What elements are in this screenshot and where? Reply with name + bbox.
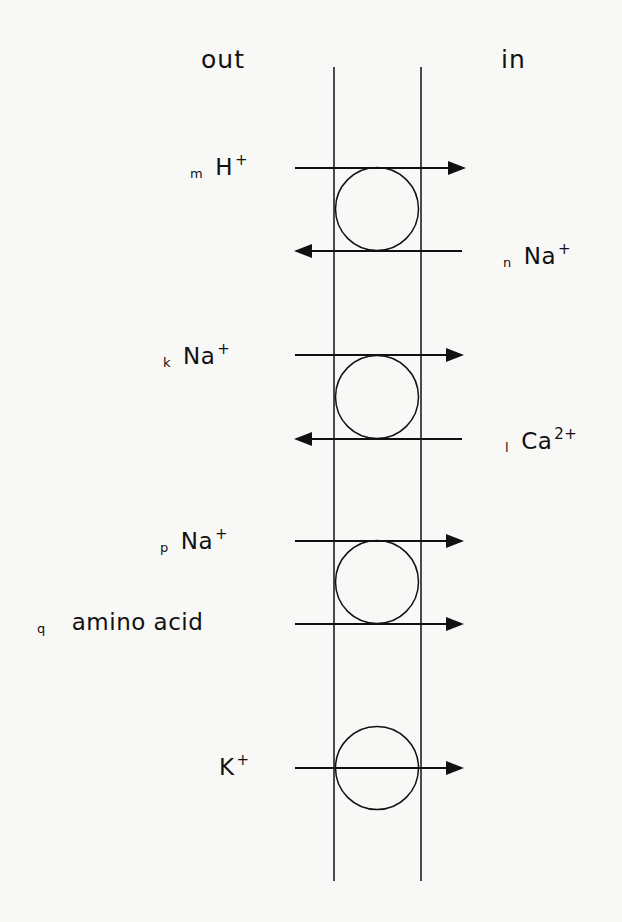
charge-h: + xyxy=(235,151,248,169)
arrow-ca-outward xyxy=(294,432,462,446)
diagram-graphics xyxy=(0,0,622,922)
species-ca: Ca xyxy=(521,428,552,454)
ion-label-k: K+ xyxy=(219,756,250,779)
arrow-na-inward-k xyxy=(295,348,464,362)
species-na: Na xyxy=(524,243,556,269)
stoichiometry-q: q xyxy=(37,621,46,636)
ion-label-na-k: kNa+ xyxy=(163,345,230,368)
ion-label-na-n: nNa+ xyxy=(503,245,571,268)
transporter-circle-na-ca-antiporter xyxy=(336,356,419,439)
membrane-transport-diagram: out in mH+ nNa+ kNa+ lCa2+ pNa+ qamino a… xyxy=(0,0,622,922)
ion-label-ca-l: lCa2+ xyxy=(505,430,577,453)
charge-k: + xyxy=(237,751,250,769)
stoichiometry-l: l xyxy=(505,440,509,455)
species-h: H xyxy=(215,154,233,180)
stoichiometry-n: n xyxy=(503,255,512,270)
ion-label-h: mH+ xyxy=(190,156,248,179)
species-na: Na xyxy=(181,528,213,554)
transporter-circle-na-aminoacid-symporter xyxy=(336,541,419,624)
stoichiometry-k: k xyxy=(163,355,171,370)
transporter-circle-h-na-antiporter xyxy=(336,168,419,251)
species-amino-acid: amino acid xyxy=(72,609,204,635)
ion-label-aminoacid-q: qamino acid xyxy=(37,611,203,634)
stoichiometry-m: m xyxy=(190,166,203,181)
arrow-aminoacid-inward xyxy=(295,617,464,631)
charge-na: + xyxy=(558,240,571,258)
species-na: Na xyxy=(183,343,215,369)
charge-na: + xyxy=(217,340,230,358)
charge-na: + xyxy=(215,525,228,543)
inside-label: in xyxy=(501,47,526,72)
species-k: K xyxy=(219,754,235,780)
outside-label: out xyxy=(201,47,245,72)
stoichiometry-p: p xyxy=(160,540,169,555)
arrow-na-inward-p xyxy=(295,534,464,548)
arrow-na-outward xyxy=(294,244,462,258)
arrow-h-inward xyxy=(295,161,466,175)
arrow-k-inward xyxy=(295,761,464,775)
charge-ca: 2+ xyxy=(554,425,577,443)
ion-label-na-p: pNa+ xyxy=(160,530,228,553)
